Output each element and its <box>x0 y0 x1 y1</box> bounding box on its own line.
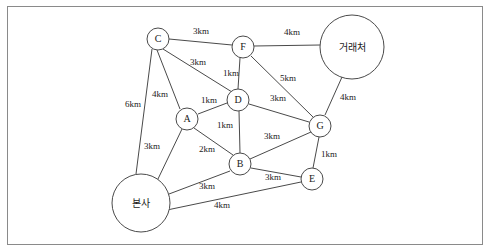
edge-a-hq <box>157 129 182 181</box>
edge-label-vendor-g: 4km <box>340 92 356 102</box>
node-b-label: B <box>237 158 244 169</box>
node-e-label: E <box>309 173 315 184</box>
node-a[interactable]: A <box>176 108 198 130</box>
node-c[interactable]: C <box>147 28 169 50</box>
edge-label-c-hq: 6km <box>125 99 141 109</box>
edge-label-d-g: 3km <box>270 93 286 103</box>
node-hq-label: 본사 <box>132 198 150 209</box>
edge-label-g-e: 1km <box>321 149 337 159</box>
network-graph: 3km 4km 3km 1km 5km 4km 4km 6km 1km 3km … <box>0 0 491 252</box>
edge-label-f-d: 1km <box>223 68 239 78</box>
edge-label-d-b: 1km <box>217 120 233 130</box>
nodes: C F 거래처 D A G <box>112 15 384 232</box>
node-b[interactable]: B <box>229 153 251 175</box>
node-d-label: D <box>234 94 241 105</box>
edge-label-c-a: 4km <box>152 89 168 99</box>
edge-label-f-vendor: 4km <box>284 27 300 37</box>
edge-label-f-g: 5km <box>280 73 296 83</box>
node-f[interactable]: F <box>232 36 254 58</box>
diagram-canvas: 3km 4km 3km 1km 5km 4km 4km 6km 1km 3km … <box>0 0 491 252</box>
edge-label-c-d: 3km <box>190 57 206 67</box>
node-g[interactable]: G <box>309 115 331 137</box>
edge-label-a-d: 1km <box>201 95 217 105</box>
edge-label-hq-e: 4km <box>214 200 230 210</box>
node-d[interactable]: D <box>227 89 249 111</box>
edge-c-d <box>163 49 232 92</box>
edge-c-f <box>169 39 232 45</box>
node-a-label: A <box>183 113 191 124</box>
edge-label-a-hq: 3km <box>144 141 160 151</box>
edge-d-g <box>249 104 309 122</box>
node-e[interactable]: E <box>301 168 323 190</box>
edge-f-vendor <box>254 45 320 46</box>
edge-c-hq <box>136 49 152 174</box>
node-hq[interactable]: 본사 <box>112 174 170 232</box>
node-c-label: C <box>155 33 162 44</box>
node-g-label: G <box>316 120 323 131</box>
edge-label-hq-b: 3km <box>199 181 215 191</box>
edge-c-a <box>157 50 180 109</box>
edge-d-b <box>239 111 240 153</box>
edge-label-b-g: 3km <box>264 131 280 141</box>
edge-label-c-f: 3km <box>193 26 209 36</box>
node-vendor[interactable]: 거래처 <box>320 15 384 79</box>
edge-label-b-e: 3km <box>265 172 281 182</box>
node-f-label: F <box>240 41 246 52</box>
edge-label-a-b: 2km <box>199 144 215 154</box>
edge-g-e <box>313 137 319 168</box>
edge-b-g <box>250 132 311 159</box>
edge-hq-e <box>167 182 301 210</box>
node-vendor-label: 거래처 <box>339 42 366 53</box>
